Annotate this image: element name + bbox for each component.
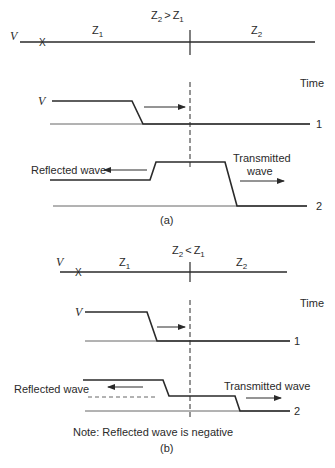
transmitted-wave-label-line1: Transmitted xyxy=(233,152,291,164)
condition-label: Z2>Z1 xyxy=(151,9,184,24)
segment-z2-label: Z2 xyxy=(236,256,248,271)
wave1-level-label: V xyxy=(75,305,84,319)
time-label: Time xyxy=(300,297,324,309)
fault-marker: X xyxy=(39,37,46,48)
wave1-trace xyxy=(52,101,310,124)
transmitted-wave-label-line2: wave xyxy=(246,165,273,177)
wave1-row-label: 1 xyxy=(316,118,322,130)
panel-b-caption: (b) xyxy=(160,442,173,454)
transmitted-wave-label: Transmitted wave xyxy=(224,380,310,392)
wave1-row-label: 1 xyxy=(294,335,300,347)
wave1-level-label: V xyxy=(38,94,47,108)
panel-a-caption: (a) xyxy=(160,214,173,226)
reflected-wave-label: Reflected wave xyxy=(31,164,106,176)
segment-z1-label: Z1 xyxy=(119,256,131,271)
wave1-trace xyxy=(85,312,290,341)
source-voltage-label: V xyxy=(10,29,19,43)
wave2-row-label: 2 xyxy=(294,405,300,417)
reflected-wave-label: Reflected wave xyxy=(14,383,89,395)
traveling-wave-diagram: Z2>Z1 V X Z1 Z2 Time V 1 Reflected wave … xyxy=(0,0,335,468)
segment-z1-label: Z1 xyxy=(92,24,104,39)
fault-marker: X xyxy=(75,267,82,278)
panel-b: Z2<Z1 V X Z1 Z2 Time V 1 Reflected wave … xyxy=(14,244,324,454)
segment-z2-label: Z2 xyxy=(251,24,263,39)
panel-a: Z2>Z1 V X Z1 Z2 Time V 1 Reflected wave … xyxy=(10,9,324,226)
wave2-row-label: 2 xyxy=(316,200,322,212)
condition-label: Z2<Z1 xyxy=(172,244,205,259)
source-voltage-label: V xyxy=(56,255,65,269)
time-label: Time xyxy=(300,77,324,89)
note-text: Note: Reflected wave is negative xyxy=(73,426,233,438)
